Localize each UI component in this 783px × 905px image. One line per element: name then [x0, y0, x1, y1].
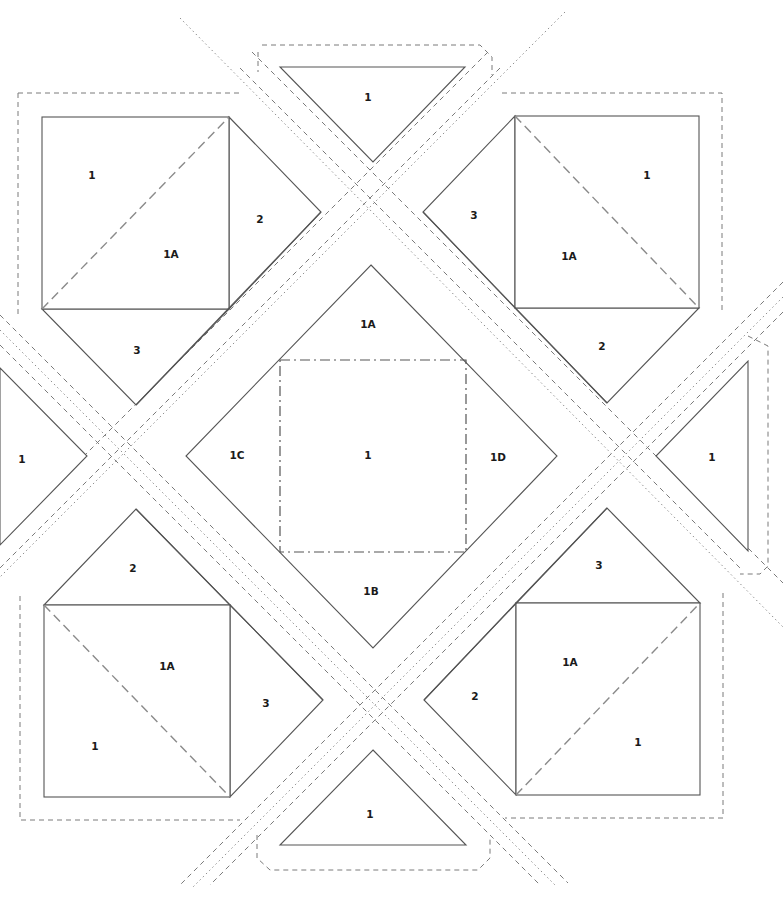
label-1: 1 [88, 169, 95, 181]
center-block: 1 1A 1B 1C 1D [186, 265, 557, 648]
label-1a: 1A [562, 656, 578, 668]
center-label: 1 [364, 449, 371, 461]
label-1a: 1A [159, 660, 175, 672]
edge-triangle-right: 1 [656, 361, 748, 551]
label-3: 3 [595, 559, 602, 571]
center-bottom-label: 1B [363, 585, 378, 597]
paper-piecing-pattern: 1 1A 1B 1C 1D 1 1A 2 3 1 1A 3 2 2 1A 3 1 [0, 0, 783, 905]
bottom-triangle [42, 309, 229, 405]
side-triangle [424, 603, 516, 795]
label-1: 1 [91, 740, 98, 752]
label-1: 1 [364, 91, 371, 103]
edge-triangle-bottom: 1 [280, 750, 466, 845]
label-1: 1 [18, 453, 25, 465]
label-1a: 1A [163, 248, 179, 260]
label-3: 3 [470, 209, 477, 221]
label-1a: 1A [561, 250, 577, 262]
bottom-triangle [515, 308, 699, 403]
label-1: 1 [708, 451, 715, 463]
label-1: 1 [366, 808, 373, 820]
edge-triangle-top: 1 [280, 67, 465, 162]
label-2: 2 [598, 340, 605, 352]
center-top-label: 1A [360, 318, 376, 330]
label-3: 3 [133, 344, 140, 356]
label-3: 3 [262, 697, 269, 709]
top-triangle [44, 509, 230, 605]
edge-triangle-left: 1 [0, 368, 87, 545]
center-left-label: 1C [229, 449, 244, 461]
center-right-label: 1D [490, 451, 506, 463]
label-1: 1 [643, 169, 650, 181]
label-1: 1 [634, 736, 641, 748]
top-triangle [516, 508, 700, 603]
label-2: 2 [256, 213, 263, 225]
label-2: 2 [129, 562, 136, 574]
side-triangle [230, 605, 323, 797]
label-2: 2 [471, 690, 478, 702]
side-triangle [423, 116, 515, 308]
